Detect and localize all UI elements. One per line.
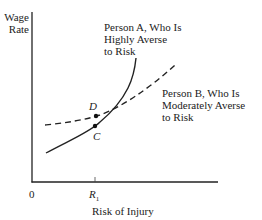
point-c-marker <box>93 124 97 128</box>
x-axis-label: Risk of Injury <box>92 205 154 217</box>
r1-subscript: 1 <box>96 195 100 203</box>
y-label-line: Wage <box>3 11 29 23</box>
point-d-marker <box>94 114 98 118</box>
r1-text: R <box>89 188 96 200</box>
label-line: to Risk <box>162 111 245 123</box>
person-a-label: Person A, Who Is Highly Averse to Risk <box>104 21 181 57</box>
person-b-curve <box>45 65 175 125</box>
person-b-label: Person B, Who Is Moderately Averse to Ri… <box>162 87 245 123</box>
y-axis-label: Wage Rate <box>3 11 29 35</box>
r1-label: R1 <box>89 188 99 205</box>
label-line: Person A, Who Is <box>104 21 181 33</box>
point-c-label: C <box>93 130 100 142</box>
point-d-label: D <box>89 100 97 112</box>
label-line: to Risk <box>104 45 181 57</box>
label-line: Moderately Averse <box>162 99 245 111</box>
label-line: Highly Averse <box>104 33 181 45</box>
y-label-line: Rate <box>3 23 29 35</box>
label-line: Person B, Who Is <box>162 87 245 99</box>
origin-label: 0 <box>29 188 35 200</box>
